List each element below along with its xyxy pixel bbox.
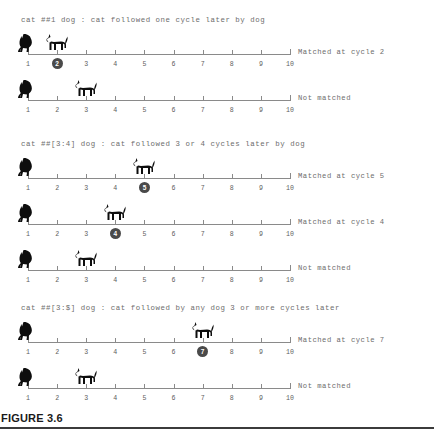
- sequence-section: cat ##1 dog : cat followed one cycle lat…: [0, 14, 435, 122]
- axis-tick: [174, 174, 175, 179]
- axis-tick: [261, 338, 262, 343]
- timeline-rows: 123456789102Matched at cycle 21234567891…: [0, 30, 435, 122]
- axis-tick-label: 5: [137, 61, 151, 68]
- axis-tick-label: 1: [21, 185, 35, 192]
- axis-tick: [57, 338, 58, 343]
- dog-icon: [44, 32, 70, 53]
- axis-tick-label: 10: [283, 349, 297, 356]
- axis-tick: [174, 384, 175, 389]
- dog-icon: [73, 78, 99, 99]
- axis-tick-label: 10: [283, 231, 297, 238]
- match-marker: 2: [52, 58, 63, 69]
- timeline-axis: [28, 54, 290, 55]
- figure-footer: FIGURE 3.6: [0, 412, 435, 429]
- sequence-header: cat ##1 dog : cat followed one cycle lat…: [0, 14, 435, 26]
- axis-tick-label: 8: [225, 185, 239, 192]
- axis-tick: [57, 220, 58, 225]
- axis-tick-label: 2: [50, 185, 64, 192]
- axis-tick: [57, 266, 58, 271]
- timeline-row: 123456789105Matched at cycle 5: [0, 154, 435, 200]
- timeline-rows: 123456789105Matched at cycle 51234567891…: [0, 154, 435, 292]
- axis-tick-label: 4: [108, 277, 122, 284]
- timeline-rows: 123456789107Matched at cycle 71234567891…: [0, 318, 435, 410]
- sequence-section: cat ##[3:$] dog : cat followed by any do…: [0, 302, 435, 410]
- axis-tick: [144, 266, 145, 271]
- axis-tick: [86, 338, 87, 343]
- cat-icon: [15, 366, 41, 387]
- axis-tick-label: 6: [167, 61, 181, 68]
- axis-tick: [174, 50, 175, 55]
- figure-caption-label: FIGURE 3.6: [0, 412, 435, 424]
- match-status-label: Matched at cycle 2: [298, 48, 385, 56]
- axis-tick-label: 8: [225, 349, 239, 356]
- axis-tick-label: 3: [79, 231, 93, 238]
- axis-tick-label: 4: [108, 185, 122, 192]
- axis-tick-label: 9: [254, 185, 268, 192]
- axis-tick-label: 4: [108, 107, 122, 114]
- axis-tick-label: 3: [79, 277, 93, 284]
- axis-tick: [57, 96, 58, 101]
- axis-tick: [232, 384, 233, 389]
- sequence-section: cat ##[3:4] dog : cat followed 3 or 4 cy…: [0, 138, 435, 292]
- axis-tick-label: 9: [254, 349, 268, 356]
- axis-tick-label: 7: [196, 107, 210, 114]
- timeline-row: 12345678910Not matched: [0, 364, 435, 410]
- axis-tick: [232, 50, 233, 55]
- axis-tick-label: 9: [254, 61, 268, 68]
- axis-tick: [174, 338, 175, 343]
- axis-tick-label: 10: [283, 277, 297, 284]
- axis-tick: [144, 96, 145, 101]
- timeline-row: 123456789107Matched at cycle 7: [0, 318, 435, 364]
- cat-icon: [15, 320, 41, 341]
- axis-tick: [115, 174, 116, 179]
- match-status-label: Not matched: [298, 382, 351, 390]
- cat-icon: [15, 202, 41, 223]
- cat-icon: [15, 248, 41, 269]
- dog-icon: [102, 202, 128, 223]
- timeline-axis: [28, 178, 290, 179]
- axis-tick-label: 1: [21, 395, 35, 402]
- axis-tick-label: 4: [108, 395, 122, 402]
- match-status-label: Not matched: [298, 94, 351, 102]
- axis-tick-label: 3: [79, 395, 93, 402]
- axis-tick: [86, 50, 87, 55]
- axis-tick: [290, 383, 291, 389]
- axis-tick: [290, 95, 291, 101]
- axis-tick: [86, 220, 87, 225]
- axis-tick: [261, 384, 262, 389]
- axis-tick-label: 8: [225, 61, 239, 68]
- axis-tick-label: 6: [167, 231, 181, 238]
- axis-tick-label: 7: [196, 231, 210, 238]
- figure-divider: [0, 427, 434, 429]
- axis-tick: [232, 220, 233, 225]
- axis-tick: [203, 220, 204, 225]
- axis-tick-label: 1: [21, 277, 35, 284]
- axis-tick-label: 2: [50, 107, 64, 114]
- axis-tick-label: 3: [79, 185, 93, 192]
- axis-tick: [144, 384, 145, 389]
- timeline-axis: [28, 224, 290, 225]
- axis-tick-label: 9: [254, 395, 268, 402]
- axis-tick: [290, 265, 291, 271]
- axis-tick-label: 7: [196, 61, 210, 68]
- axis-tick-label: 9: [254, 231, 268, 238]
- axis-tick-label: 10: [283, 107, 297, 114]
- match-status-label: Matched at cycle 4: [298, 218, 385, 226]
- axis-tick-label: 3: [79, 349, 93, 356]
- axis-tick: [232, 338, 233, 343]
- axis-tick-label: 8: [225, 231, 239, 238]
- axis-tick-label: 1: [21, 107, 35, 114]
- axis-tick: [261, 50, 262, 55]
- axis-tick-label: 5: [137, 231, 151, 238]
- match-marker: 4: [110, 228, 121, 239]
- timeline-row: 123456789102Matched at cycle 2: [0, 30, 435, 76]
- axis-tick: [203, 174, 204, 179]
- axis-tick: [261, 174, 262, 179]
- axis-tick: [261, 96, 262, 101]
- axis-tick-label: 3: [79, 61, 93, 68]
- match-marker: 5: [139, 182, 150, 193]
- axis-tick: [115, 384, 116, 389]
- axis-tick-label: 5: [137, 277, 151, 284]
- axis-tick-label: 6: [167, 277, 181, 284]
- axis-tick: [57, 384, 58, 389]
